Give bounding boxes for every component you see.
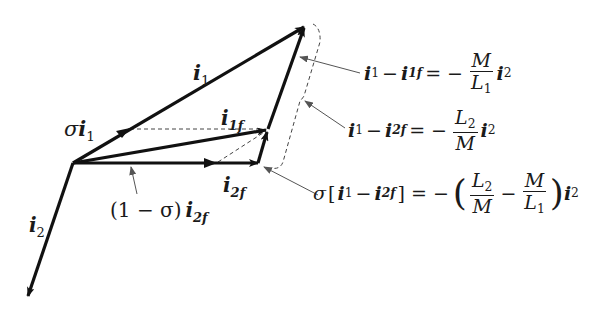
arrowhead-one-minus-sigma-i2f [204, 158, 217, 168]
label-i2-base: i [29, 213, 37, 237]
label-one-minus-sigma-base: i [185, 198, 193, 222]
label-i1-sub: 1 [201, 72, 210, 88]
label-i2: i2 [29, 215, 45, 239]
eq1-lhs-b: i [401, 64, 408, 83]
eq3-frac2-den-sub: 1 [537, 202, 545, 216]
eq1-lhs-b-sub: 1f [408, 67, 422, 79]
eq2-num-sub: 2 [468, 117, 476, 131]
eq2-minus: − [366, 121, 382, 140]
eq2-fraction: L2 M [453, 107, 477, 154]
leader-eq3 [264, 167, 318, 195]
eq3-frac1-num-base: L [472, 169, 485, 191]
eq3-frac1-num-sub: 2 [485, 180, 493, 194]
label-i1f: i1f [221, 108, 243, 132]
eq1-den-sub: 1 [484, 82, 492, 96]
eq3-fraction-1: L2 M [470, 170, 494, 217]
eq1-lhs-a: i [364, 64, 371, 83]
eq1-den-base: L [471, 71, 484, 93]
eq2-lhs-a: i [348, 121, 355, 140]
eq2-lhs-b-sub: 2f [392, 124, 406, 136]
eq3-minus: − [355, 184, 371, 203]
eq3-rhs-sub: 2 [571, 187, 579, 199]
equation-1: i1 − i1f = − M L1 i2 [364, 50, 512, 97]
label-i1: i1 [193, 62, 210, 87]
label-sigma-i1-sub: 1 [86, 128, 95, 144]
eq3-frac1-numerator: L2 [470, 170, 494, 196]
eq3-frac2-denominator: L1 [522, 192, 546, 217]
eq2-numerator: L2 [453, 107, 477, 133]
eq2-rhs: i [481, 121, 488, 140]
eq3-close-bracket: ] [398, 184, 405, 203]
eq2-lhs-a-sub: 1 [355, 124, 363, 136]
leader-eq1 [300, 57, 360, 73]
eq3-rhs: i [564, 184, 571, 203]
eq2-num-base: L [455, 106, 468, 128]
eq3-fraction-2: M L1 [522, 170, 546, 217]
label-one-minus-sigma-prefix: (1 − σ) [110, 198, 181, 222]
vector-diagram: i1 σi1 i1f i2f i2 (1 − σ)i2f i1 − i1f = … [0, 0, 597, 312]
eq3-lhs-a: i [337, 184, 344, 203]
label-i2f: i2f [223, 175, 245, 199]
eq3-lhs-b: i [374, 184, 381, 203]
vector-i1-minus-i1f [268, 28, 304, 129]
label-sigma-i1: σi1 [64, 118, 95, 143]
label-i1f-sub: 1f [229, 118, 244, 133]
eq3-sigma: σ [313, 184, 326, 203]
eq3-frac1-denominator: M [470, 196, 493, 217]
eq3-open-bracket: [ [328, 184, 335, 203]
leader-eq2 [305, 101, 345, 128]
vector-sigma-segment [258, 132, 267, 163]
eq1-fraction: M L1 [469, 50, 493, 97]
eq1-minus: − [382, 64, 398, 83]
eq1-rhs-sub: 2 [504, 67, 512, 79]
eq1-rhs: i [497, 64, 504, 83]
equation-2: i1 − i2f = − L2 M i2 [348, 107, 496, 154]
diagram-canvas [0, 0, 597, 312]
eq3-lhs-b-sub: 2f [382, 187, 396, 199]
label-one-minus-sigma-sub: 2f [193, 210, 208, 225]
label-i2f-sub: 2f [231, 185, 246, 200]
eq2-denominator: M [454, 133, 477, 154]
label-i2-sub: 2 [37, 225, 45, 240]
eq3-mid-minus: − [500, 184, 516, 203]
leader-one-minus-sigma [131, 167, 137, 194]
label-i1f-base: i [221, 106, 229, 130]
eq2-rhs-sub: 2 [488, 124, 496, 136]
eq3-frac2-numerator: M [523, 170, 546, 192]
eq1-lhs-a-sub: 1 [371, 67, 379, 79]
label-sigma-prefix: σ [64, 117, 78, 141]
eq3-open-paren: ( [453, 175, 467, 211]
eq3-lhs-a-sub: 1 [345, 187, 353, 199]
eq3-frac2-den-base: L [524, 191, 537, 213]
eq1-denominator: L1 [469, 72, 493, 97]
label-one-minus-sigma-i2f: (1 − σ)i2f [110, 200, 208, 224]
eq2-equals: = − [409, 121, 447, 140]
eq1-numerator: M [470, 50, 493, 72]
eq3-equals: = − [411, 184, 449, 203]
label-i2f-base: i [223, 173, 231, 197]
eq1-equals: = − [425, 64, 463, 83]
label-i1-base: i [193, 60, 201, 85]
eq3-close-paren: ) [550, 175, 564, 211]
equation-3: σ [ i1 − i2f ] = − ( L2 M − M L1 ) i2 [313, 170, 579, 217]
